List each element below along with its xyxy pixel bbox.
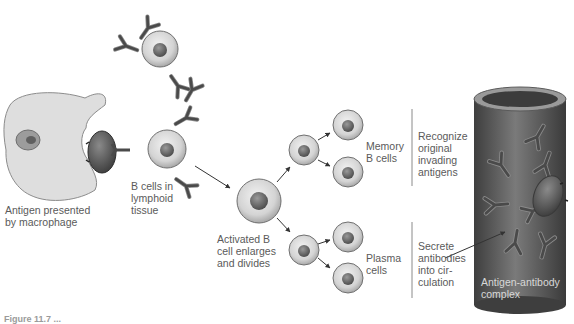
memory-lineage (289, 110, 363, 187)
label-plasma-role: Secrete antibodies into cir- culation (418, 240, 466, 288)
figure-caption: Figure 11.7 ... (4, 314, 61, 324)
label-activated: Activated B cell enlarges and divides (217, 233, 276, 269)
label-memory: Memory B cells (366, 140, 404, 164)
label-plasma: Plasma cells (366, 252, 401, 276)
b-cell-top (115, 17, 189, 98)
label-b-cells: B cells in lymphoid tissue (131, 180, 173, 216)
arrow-to-activated (195, 166, 230, 188)
label-macrophage: Antigen presented by macrophage (5, 204, 90, 228)
activated-b-cell (237, 179, 281, 223)
label-memory-role: Recognize original invading antigens (418, 130, 468, 178)
receptor-link (112, 144, 130, 156)
plasma-lineage (289, 222, 363, 293)
label-complex: Antigen-antibody complex (481, 276, 560, 300)
